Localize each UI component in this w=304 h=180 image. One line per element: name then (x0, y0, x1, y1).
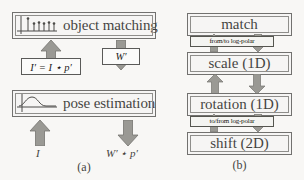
panel-b-stage-rotation: rotation (1D) (187, 93, 292, 116)
panel-b-stage-match: match (187, 13, 292, 36)
panel-b-arrow-scale-rotation-up (206, 74, 224, 94)
panel-a-formula-w-prime: W′ (102, 48, 140, 65)
panel-b-stage-scale-label: scale (1D) (208, 55, 270, 72)
panel-a-box-object-matching: object matching (12, 12, 156, 39)
point-cloud-axes-icon (15, 15, 59, 36)
figure-canvas: object matching I′ = I ⋆ p′ W′ (0, 0, 304, 180)
curve-plot-axes-icon (15, 93, 59, 114)
panel-a-caption: (a) (0, 160, 168, 175)
panel-b-label-from-to-log-polar: from/to log-polar (190, 36, 274, 47)
panel-b-stage-shift-label: shift (2D) (210, 135, 269, 152)
panel-a-formula-i-prime-text: I′ = I ⋆ p′ (30, 61, 71, 73)
panel-b-stage-rotation-label: rotation (1D) (200, 96, 279, 113)
panel-b-label-to-from-log-polar: to/from log-polar (190, 116, 274, 127)
panel-b-caption: (b) (187, 158, 292, 173)
panel-b-stage-scale: scale (1D) (187, 52, 292, 75)
panel-a-formula-w-prime-text: W′ (115, 51, 126, 62)
panel-a-input-label-I: I (36, 147, 40, 159)
panel-a-label-object-matching: object matching (63, 17, 158, 34)
panel-a-arrow-input-up (29, 120, 51, 146)
panel-b-stage-match-label: match (221, 16, 258, 33)
panel-b-arrow-scale-rotation-down (248, 74, 266, 94)
panel-a-arrow-output-down (117, 120, 139, 146)
panel-a-box-pose-estimation: pose estimation (12, 90, 156, 117)
panel-a-formula-i-prime: I′ = I ⋆ p′ (21, 58, 81, 75)
panel-b-stage-shift: shift (2D) (187, 132, 292, 155)
panel-a-output-label-wp: W′ ⋆ p′ (106, 147, 138, 160)
panel-a-label-pose-estimation: pose estimation (63, 95, 155, 112)
